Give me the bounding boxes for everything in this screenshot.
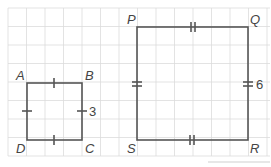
vertex-b-label: B — [85, 68, 94, 83]
vertex-a-label: A — [15, 68, 25, 83]
figure-canvas: A B D C 3 P Q S R 6 — [0, 0, 271, 167]
vertex-q-label: Q — [250, 12, 260, 27]
vertex-c-label: C — [85, 141, 95, 156]
vertex-p-label: P — [127, 12, 136, 27]
side-length-3-label: 3 — [89, 104, 96, 119]
vertex-d-label: D — [16, 141, 25, 156]
vertex-r-label: R — [250, 141, 259, 156]
square-abcd — [22, 78, 87, 145]
vertex-s-label: S — [127, 141, 136, 156]
side-length-6-label: 6 — [256, 77, 263, 92]
square-pqrs — [132, 22, 253, 145]
